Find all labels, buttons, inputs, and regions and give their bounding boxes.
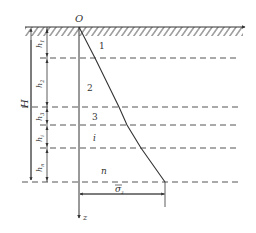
h1-label: h1 [35, 40, 45, 48]
ground-hatch [25, 27, 243, 36]
layer-n-label: n [101, 166, 107, 176]
origin-label: O [75, 13, 83, 24]
stress-distribution-line [79, 27, 165, 182]
layer-1-label: 1 [99, 41, 105, 51]
layer-boundaries [22, 58, 238, 182]
h3-label: h3 [35, 113, 45, 121]
hi-label: hi [35, 135, 45, 142]
hn-label: hn [35, 164, 45, 172]
layer-i-label: i [93, 133, 96, 143]
layer-2-label: 2 [87, 83, 93, 93]
h2-label: h2 [35, 80, 45, 88]
H-label: H [19, 99, 30, 109]
stress-label: σz [115, 184, 124, 195]
soil-stress-diagram: O z H h1 h2 h3 hi hn 1 2 3 i n σ [0, 0, 256, 233]
z-axis-label: z [82, 213, 88, 222]
layer-3-label: 3 [92, 112, 98, 122]
